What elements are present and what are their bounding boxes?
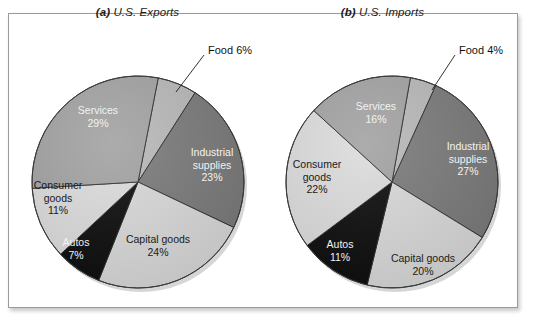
- food-callout-imports: Food 4%: [459, 44, 503, 56]
- panel-title-imports: (b) U.S. Imports: [255, 6, 510, 18]
- food-callout-exports: Food 6%: [208, 44, 252, 56]
- panel-tag-imports: (b): [341, 6, 356, 18]
- figure-container: (a) U.S. Exports (b) U.S. Imports Food 6…: [0, 0, 534, 326]
- panel-title-text-exports: U.S. Exports: [113, 6, 179, 18]
- panel-title-text-imports: U.S. Imports: [359, 6, 424, 18]
- panel-tag-exports: (a): [96, 6, 110, 18]
- panel-title-exports: (a) U.S. Exports: [10, 6, 265, 18]
